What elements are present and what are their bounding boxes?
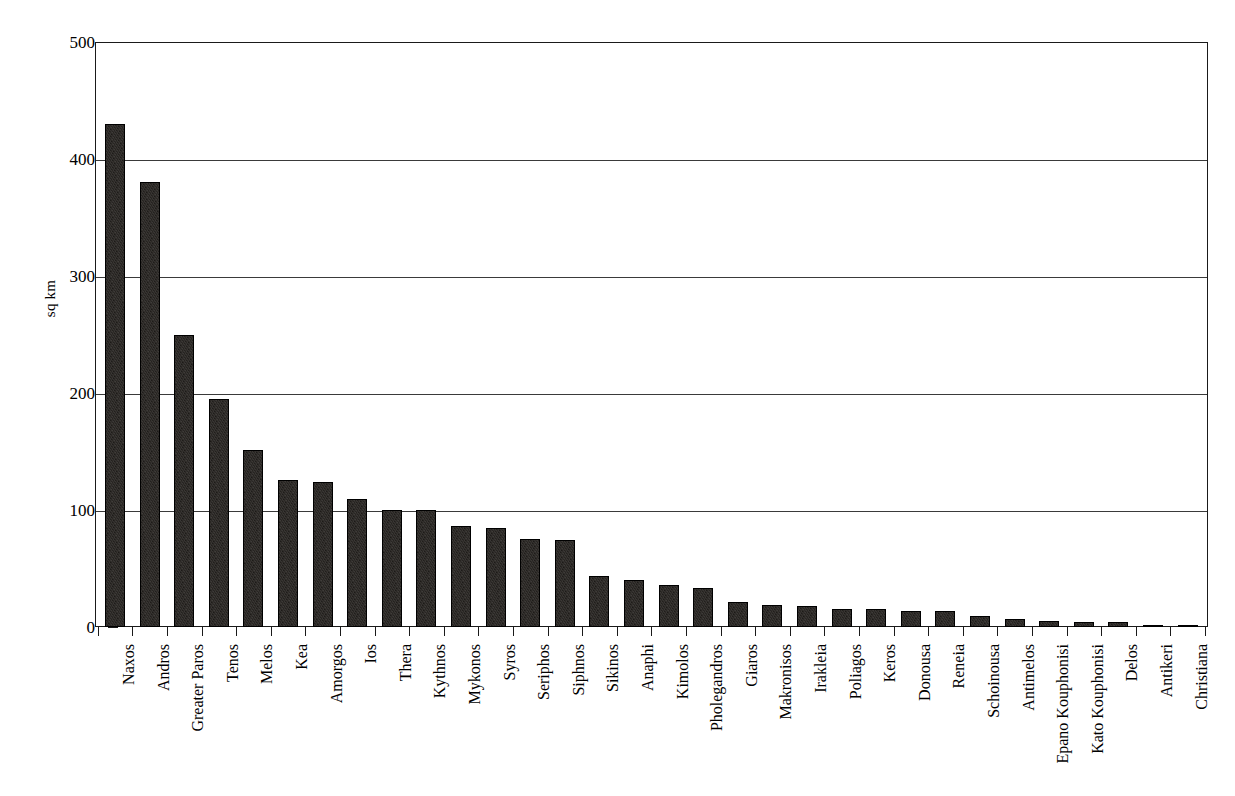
- bar: [313, 482, 333, 627]
- x-tick-mark: [824, 627, 825, 636]
- bar: [797, 606, 817, 627]
- x-tick-label: Anaphi: [640, 640, 656, 796]
- bar: [209, 399, 229, 627]
- x-tick-mark: [513, 627, 514, 636]
- x-tick-mark: [409, 627, 410, 636]
- y-tick-label-100: 100: [43, 502, 95, 519]
- x-tick-mark: [202, 627, 203, 636]
- x-tick-mark: [444, 627, 445, 636]
- bar: [382, 510, 402, 627]
- x-tick-label: Reneia: [951, 640, 967, 796]
- x-tick-mark: [375, 627, 376, 636]
- x-tick-label: Syros: [502, 640, 518, 796]
- bar: [693, 588, 713, 627]
- bar: [486, 528, 506, 627]
- x-tick-label: Tenos: [225, 640, 241, 796]
- x-tick-mark: [1067, 627, 1068, 636]
- x-tick-mark: [1101, 627, 1102, 636]
- x-tick-label: Giaros: [744, 640, 760, 796]
- x-tick-mark: [132, 627, 133, 636]
- x-tick-label: Epano Kouphonisi: [1055, 640, 1071, 796]
- x-tick-label: Pholegandros: [709, 640, 725, 796]
- x-tick-label: Kato Kouphonisi: [1090, 640, 1106, 796]
- x-tick-mark: [478, 627, 479, 636]
- bar: [935, 611, 955, 627]
- bars-layer: [95, 42, 1208, 627]
- x-tick-label: Thera: [398, 640, 414, 796]
- y-tick-label-400: 400: [43, 151, 95, 168]
- bar: [451, 526, 471, 627]
- bar: [347, 499, 367, 627]
- bar: [589, 576, 609, 627]
- bar: [140, 182, 160, 627]
- x-tick-label: Christiana: [1194, 640, 1210, 796]
- x-tick-label: Andros: [156, 640, 172, 796]
- bar: [105, 124, 125, 627]
- x-tick-mark: [755, 627, 756, 636]
- x-tick-mark: [340, 627, 341, 636]
- x-tick-mark: [167, 627, 168, 636]
- x-tick-mark: [1032, 627, 1033, 636]
- x-tick-label: Kea: [294, 640, 310, 796]
- x-tick-label: Schoinousa: [986, 640, 1002, 796]
- x-tick-mark: [271, 627, 272, 636]
- y-tick-label-300: 300: [43, 268, 95, 285]
- x-tick-label: Amorgos: [329, 640, 345, 796]
- x-axis-labels: NaxosAndrosGreater ParosTenosMelosKeaAmo…: [95, 640, 1208, 790]
- x-tick-mark: [617, 627, 618, 636]
- x-tick-label: Greater Paros: [190, 640, 206, 796]
- x-tick-label: Melos: [259, 640, 275, 796]
- x-tick-mark: [582, 627, 583, 636]
- bar: [901, 611, 921, 627]
- x-tick-label: Naxos: [121, 640, 137, 796]
- x-tick-mark: [1136, 627, 1137, 636]
- y-tick-label-500: 500: [43, 34, 95, 51]
- x-tick-label: Delos: [1124, 640, 1140, 796]
- y-tick-label-0: 0: [43, 619, 95, 636]
- x-tick-label: Sikinos: [605, 640, 621, 796]
- bar: [970, 616, 990, 627]
- bar: [659, 585, 679, 627]
- bar: [243, 450, 263, 627]
- bar: [624, 580, 644, 627]
- x-tick-label: Keros: [882, 640, 898, 796]
- bar: [174, 335, 194, 628]
- x-tick-mark: [548, 627, 549, 636]
- x-tick-mark: [997, 627, 998, 636]
- bar: [1005, 619, 1025, 627]
- x-tick-label: Siphnos: [571, 640, 587, 796]
- y-tick-label-200: 200: [43, 385, 95, 402]
- bar: [278, 480, 298, 627]
- x-tick-label: Kimolos: [675, 640, 691, 796]
- x-tick-label: Poliagos: [848, 640, 864, 796]
- bar: [416, 510, 436, 627]
- x-tick-mark: [790, 627, 791, 636]
- x-tick-label: Irakleia: [813, 640, 829, 796]
- x-tick-mark: [859, 627, 860, 636]
- x-tick-mark: [305, 627, 306, 636]
- x-tick-label: Kythnos: [432, 640, 448, 796]
- y-axis: 5004003002001000: [20, 0, 95, 796]
- x-tick-label: Antimelos: [1021, 640, 1037, 796]
- bar: [728, 602, 748, 627]
- bar-chart: sq km 5004003002001000 NaxosAndrosGreate…: [0, 0, 1235, 796]
- x-tick-label: Antikeri: [1159, 640, 1175, 796]
- x-tick-mark: [963, 627, 964, 636]
- x-tick-mark: [1170, 627, 1171, 636]
- bar: [832, 609, 852, 627]
- bar: [866, 609, 886, 627]
- x-axis-ticks: [95, 627, 1208, 639]
- x-tick-label: Makronisos: [778, 640, 794, 796]
- x-tick-label: Mykonos: [467, 640, 483, 796]
- x-tick-mark: [651, 627, 652, 636]
- x-tick-mark: [1205, 627, 1206, 636]
- bar: [520, 539, 540, 627]
- x-tick-mark: [98, 627, 99, 636]
- x-tick-label: Ios: [363, 640, 379, 796]
- x-tick-mark: [928, 627, 929, 636]
- x-tick-mark: [236, 627, 237, 636]
- x-tick-mark: [721, 627, 722, 636]
- x-tick-mark: [686, 627, 687, 636]
- x-tick-label: Donousa: [917, 640, 933, 796]
- x-tick-label: Seriphos: [536, 640, 552, 796]
